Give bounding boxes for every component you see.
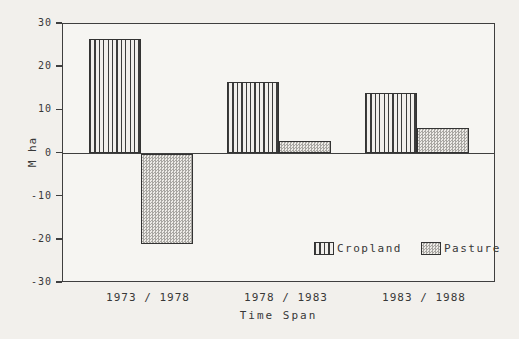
y-tick-label: -20: [14, 233, 52, 245]
legend-swatch-cropland: [314, 242, 334, 255]
y-tick-mark: [56, 152, 62, 153]
x-category-label: 1973 / 1978: [78, 291, 218, 304]
y-tick-mark: [56, 195, 62, 196]
bar-pasture-1: [141, 154, 193, 245]
legend-label-pasture: Pasture: [444, 242, 501, 255]
bar-pasture-2: [279, 141, 331, 154]
plot-area: CroplandPasture: [62, 23, 495, 282]
y-tick-label: 0: [14, 147, 52, 159]
y-tick-mark: [56, 109, 62, 110]
legend: CroplandPasture: [314, 242, 501, 255]
y-tick-mark: [56, 22, 62, 23]
bar-cropland-1: [89, 39, 141, 153]
bar-cropland-3: [365, 93, 417, 153]
bar-cropland-2: [227, 82, 279, 153]
y-tick-label: 20: [14, 60, 52, 72]
x-axis-title: Time Span: [62, 309, 495, 322]
legend-entry-cropland: Cropland: [314, 242, 402, 255]
bar-chart-figure: M ha CroplandPasture 3020100-10-20-30 19…: [0, 0, 519, 339]
y-tick-mark: [56, 238, 62, 239]
x-category-label: 1983 / 1988: [354, 291, 494, 304]
legend-label-cropland: Cropland: [337, 242, 402, 255]
x-category-label: 1978 / 1983: [216, 291, 356, 304]
bar-pasture-3: [417, 128, 469, 154]
y-tick-label: 10: [14, 103, 52, 115]
y-tick-label: -10: [14, 190, 52, 202]
legend-entry-pasture: Pasture: [421, 242, 501, 255]
y-tick-label: -30: [14, 276, 52, 288]
y-tick-label: 30: [14, 17, 52, 29]
y-tick-mark: [56, 65, 62, 66]
y-tick-mark: [56, 281, 62, 282]
legend-swatch-pasture: [421, 242, 441, 255]
